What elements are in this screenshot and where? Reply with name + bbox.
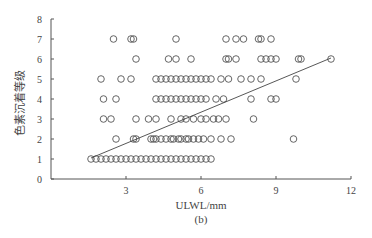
data-point (113, 96, 120, 103)
data-point (153, 116, 160, 123)
data-point (228, 136, 235, 143)
data-point (218, 136, 225, 143)
data-point (203, 116, 210, 123)
y-tick-label: 8 (37, 14, 42, 25)
regression-line (91, 58, 331, 158)
axes: 01234567836912 (37, 14, 356, 197)
data-point (113, 136, 120, 143)
data-point (200, 136, 207, 143)
data-point (223, 36, 230, 43)
data-point (233, 36, 240, 43)
x-tick-label: 3 (124, 185, 129, 196)
data-point (133, 116, 140, 123)
y-tick-label: 2 (37, 134, 42, 145)
data-point (240, 36, 247, 43)
x-axis-title: ULWL/mm (175, 199, 227, 211)
data-point (208, 76, 215, 83)
data-point (173, 36, 180, 43)
y-tick-label: 6 (37, 54, 42, 65)
data-point (213, 96, 220, 103)
data-point (273, 56, 280, 63)
data-point (218, 76, 225, 83)
data-point (118, 76, 125, 83)
data-point (110, 36, 117, 43)
data-point (208, 156, 215, 163)
data-point (100, 116, 107, 123)
y-tick-label: 1 (37, 154, 42, 165)
data-points (88, 36, 335, 163)
trendline (91, 58, 331, 158)
data-point (258, 76, 265, 83)
data-point (165, 56, 172, 63)
x-tick-label: 12 (346, 185, 356, 196)
data-point (233, 56, 240, 63)
data-point (108, 116, 115, 123)
data-point (133, 56, 140, 63)
data-point (273, 96, 280, 103)
data-point (145, 116, 152, 123)
x-tick-label: 9 (274, 185, 279, 196)
y-axis-title: 色素沉着等级 (13, 70, 26, 136)
data-point (203, 96, 210, 103)
data-point (188, 56, 195, 63)
data-point (215, 116, 222, 123)
data-point (173, 56, 180, 63)
y-tick-label: 3 (37, 114, 42, 125)
data-point (168, 116, 175, 123)
y-tick-label: 0 (37, 174, 42, 185)
panel-label: (b) (195, 213, 208, 226)
data-point (293, 76, 300, 83)
data-point (220, 96, 227, 103)
y-tick-label: 4 (37, 94, 42, 105)
data-point (98, 76, 105, 83)
y-tick-label: 7 (37, 34, 42, 45)
data-point (128, 76, 135, 83)
data-point (223, 116, 230, 123)
data-point (250, 116, 257, 123)
data-point (208, 136, 215, 143)
data-point (290, 136, 297, 143)
data-point (100, 96, 107, 103)
x-tick-label: 6 (199, 185, 204, 196)
data-point (248, 96, 255, 103)
data-point (238, 76, 245, 83)
y-tick-label: 5 (37, 74, 42, 85)
scatter-chart: 01234567836912 色素沉着等级 ULWL/mm (b) (0, 0, 372, 238)
data-point (268, 36, 275, 43)
data-point (225, 76, 232, 83)
data-point (248, 76, 255, 83)
